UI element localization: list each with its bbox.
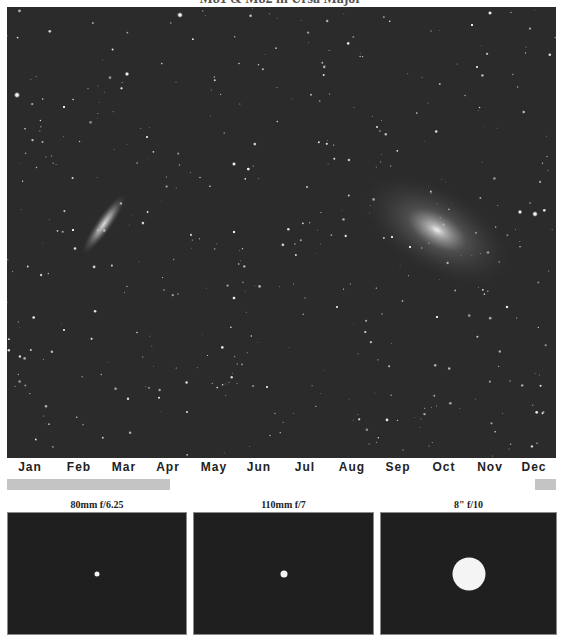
target-disc-icon (280, 570, 287, 577)
m81-galaxy (345, 153, 529, 308)
target-disc-icon (452, 557, 485, 590)
month-label-jan: Jan (18, 460, 42, 474)
sky-photo (7, 7, 556, 458)
target-disc-icon (95, 571, 100, 576)
chart-title-cut-off: M81 & M82 in Ursa Major (0, 0, 561, 7)
month-label-jun: Jun (247, 460, 271, 474)
month-label-mar: Mar (112, 460, 136, 474)
month-label-jul: Jul (295, 460, 315, 474)
galaxies (77, 153, 529, 308)
month-label-apr: Apr (156, 460, 180, 474)
fov-label-0: 80mm f/6.25 (7, 499, 187, 510)
month-axis: JanFebMarAprMayJunJulAugSepOctNovDec (7, 460, 556, 478)
visibility-bar-1 (535, 479, 556, 490)
fov-panel-0 (7, 512, 187, 635)
month-label-dec: Dec (521, 460, 546, 474)
month-label-sep: Sep (385, 460, 410, 474)
month-label-may: May (201, 460, 227, 474)
fov-panel-2 (380, 512, 557, 635)
month-label-feb: Feb (67, 460, 91, 474)
m82-galaxy (77, 190, 131, 258)
star-field-image (7, 7, 556, 458)
visibility-bar-0 (7, 479, 170, 490)
month-label-nov: Nov (477, 460, 503, 474)
month-label-aug: Aug (339, 460, 365, 474)
fov-panel-1 (193, 512, 374, 635)
fov-label-1: 110mm f/7 (193, 499, 374, 510)
fov-label-2: 8" f/10 (380, 499, 557, 510)
month-label-oct: Oct (432, 460, 455, 474)
